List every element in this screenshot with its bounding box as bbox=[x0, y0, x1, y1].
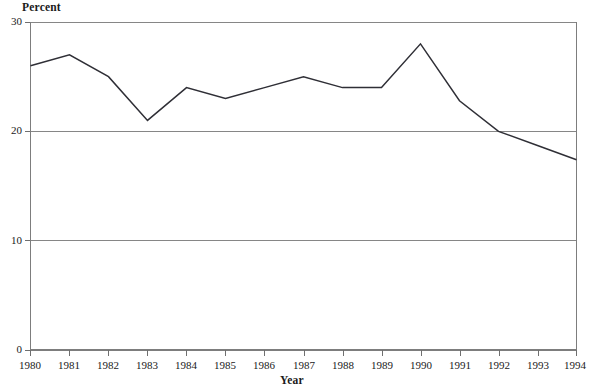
y-tick-label-10: 10 bbox=[0, 234, 22, 246]
x-tick-label-1983: 1983 bbox=[127, 359, 167, 371]
gridlines bbox=[30, 22, 577, 241]
x-tick-label-1982: 1982 bbox=[88, 359, 128, 371]
y-tick-label-20: 20 bbox=[0, 124, 22, 136]
axes bbox=[30, 22, 577, 350]
x-tick-label-1990: 1990 bbox=[401, 359, 441, 371]
y-tick-label-30: 30 bbox=[0, 15, 22, 27]
x-tick-label-1985: 1985 bbox=[205, 359, 245, 371]
x-tick-label-1986: 1986 bbox=[244, 359, 284, 371]
x-tick-label-1984: 1984 bbox=[166, 359, 206, 371]
plot-area bbox=[0, 0, 594, 391]
x-tick-label-1988: 1988 bbox=[323, 359, 363, 371]
data-series-line bbox=[31, 44, 577, 160]
x-tick-label-1980: 1980 bbox=[10, 359, 50, 371]
x-tick-label-1981: 1981 bbox=[49, 359, 89, 371]
x-tick-label-1993: 1993 bbox=[518, 359, 558, 371]
line-chart: Percent Year bbox=[0, 0, 594, 391]
x-tick-label-1994: 1994 bbox=[555, 359, 594, 371]
y-tick-marks bbox=[25, 22, 30, 350]
x-tick-label-1989: 1989 bbox=[362, 359, 402, 371]
x-tick-label-1991: 1991 bbox=[440, 359, 480, 371]
x-tick-marks bbox=[31, 350, 577, 356]
x-tick-label-1992: 1992 bbox=[479, 359, 519, 371]
y-tick-label-0: 0 bbox=[0, 343, 22, 355]
x-tick-label-1987: 1987 bbox=[284, 359, 324, 371]
